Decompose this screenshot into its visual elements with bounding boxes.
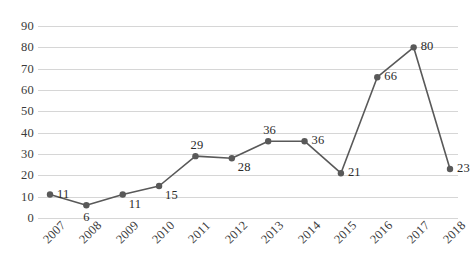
data-point-marker — [83, 202, 89, 208]
data-label: 29 — [190, 139, 203, 152]
x-tick-label: 2011 — [186, 219, 213, 246]
data-point-marker — [265, 138, 271, 144]
data-label: 36 — [263, 124, 276, 137]
x-tick-label: 2012 — [223, 219, 250, 246]
data-point-marker — [192, 153, 198, 159]
data-label: 80 — [421, 40, 434, 53]
data-label: 11 — [129, 198, 141, 211]
data-point-marker — [301, 138, 307, 144]
data-label: 66 — [384, 70, 397, 83]
y-tick-label: 10 — [0, 190, 34, 203]
data-point-marker — [229, 155, 235, 161]
series-line — [38, 26, 458, 218]
y-tick-label: 80 — [0, 41, 34, 54]
y-tick-label: 20 — [0, 169, 34, 182]
data-label: 11 — [57, 188, 69, 201]
x-tick-label: 2018 — [441, 219, 468, 246]
y-tick-label: 0 — [0, 212, 34, 225]
y-tick-label: 70 — [0, 62, 34, 75]
data-point-marker — [47, 191, 53, 197]
x-tick-label: 2017 — [404, 219, 431, 246]
y-axis: 9080706050403020100 — [0, 26, 34, 218]
y-tick-label: 90 — [0, 20, 34, 33]
y-tick-label: 50 — [0, 105, 34, 118]
x-tick-label: 2013 — [259, 219, 286, 246]
data-point-marker — [156, 183, 162, 189]
data-label: 36 — [312, 134, 325, 147]
x-tick-label: 2009 — [114, 219, 141, 246]
line-chart: 9080706050403020100 11611152928363621668… — [0, 0, 476, 272]
plot-area: 11611152928363621668023 — [38, 26, 458, 218]
y-tick-label: 60 — [0, 84, 34, 97]
x-tick-label: 2014 — [295, 219, 322, 246]
data-label: 23 — [457, 162, 470, 175]
x-axis: 2007200820092010201120122013201420152016… — [38, 218, 458, 272]
data-label: 21 — [348, 166, 361, 179]
y-tick-label: 40 — [0, 126, 34, 139]
data-point-marker — [120, 191, 126, 197]
x-tick-label: 2016 — [368, 219, 395, 246]
x-tick-label: 2008 — [77, 219, 104, 246]
data-point-marker — [410, 44, 416, 50]
data-point-marker — [338, 170, 344, 176]
x-tick-label: 2010 — [150, 219, 177, 246]
data-label: 15 — [165, 189, 178, 202]
y-tick-label: 30 — [0, 148, 34, 161]
data-point-marker — [374, 74, 380, 80]
data-point-marker — [447, 166, 453, 172]
x-tick-label: 2015 — [332, 219, 359, 246]
x-tick-label: 2007 — [41, 219, 68, 246]
data-label: 28 — [238, 161, 251, 174]
